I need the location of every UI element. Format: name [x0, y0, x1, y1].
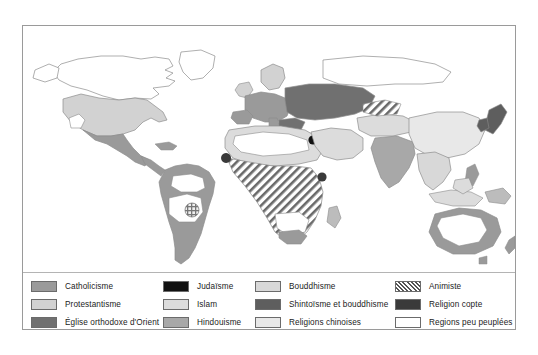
legend-column-1: Catholicisme Protestantisme Église ortho… — [31, 278, 159, 332]
legend-label-regions-peu-peuplees: Regions peu peuplées — [429, 317, 512, 328]
legend-swatch-religions-chinoises — [255, 317, 281, 328]
legend-column-2: Judaïsme Islam Hindouisme — [163, 278, 241, 332]
legend-swatch-islam — [163, 299, 189, 310]
world-map-canvas — [23, 26, 515, 271]
legend-item-judaisme[interactable]: Judaïsme — [163, 278, 241, 294]
legend-label-animiste: Animiste — [429, 281, 461, 292]
legend-label-judaisme: Judaïsme — [197, 281, 233, 292]
legend-label-protestantisme: Protestantisme — [65, 299, 121, 310]
legend-label-shintoisme-et-bouddhisme: Shintoïsme et bouddhisme — [289, 299, 388, 310]
legend-swatch-animiste — [395, 281, 421, 292]
legend-item-catholicisme[interactable]: Catholicisme — [31, 278, 159, 294]
legend-label-religion-copte: Religion copte — [429, 299, 482, 310]
legend-swatch-catholicisme — [31, 281, 57, 292]
legend-swatch-shintoisme-et-bouddhisme — [255, 299, 281, 310]
legend-label-bouddhisme: Bouddhisme — [289, 281, 336, 292]
region-morocco-copt-dot — [221, 153, 231, 163]
legend-label-eglise-orthodoxe-orient: Église orthodoxe d'Orient — [65, 317, 159, 328]
legend-column-4: Animiste Religion copte Regions peu peup… — [395, 278, 512, 332]
legend-swatch-hindouisme — [163, 317, 189, 328]
legend-swatch-religion-copte — [395, 299, 421, 310]
legend-item-religions-chinoises[interactable]: Religions chinoises — [255, 314, 388, 330]
legend-item-eglise-orthodoxe-orient[interactable]: Église orthodoxe d'Orient — [31, 314, 159, 330]
legend-column-3: Bouddhisme Shintoïsme et bouddhisme Reli… — [255, 278, 388, 332]
legend-swatch-eglise-orthodoxe-orient — [31, 317, 57, 328]
legend-swatch-protestantisme — [31, 299, 57, 310]
legend-swatch-regions-peu-peuplees — [395, 317, 421, 328]
legend-item-hindouisme[interactable]: Hindouisme — [163, 314, 241, 330]
legend-swatch-bouddhisme — [255, 281, 281, 292]
legend-label-catholicisme: Catholicisme — [65, 281, 113, 292]
legend-item-regions-peu-peuplees[interactable]: Regions peu peuplées — [395, 314, 512, 330]
region-brazil-animist-patch — [185, 203, 199, 217]
legend-label-hindouisme: Hindouisme — [197, 317, 241, 328]
map-legend: Catholicisme Protestantisme Église ortho… — [23, 274, 515, 329]
region-ethiopia-copte — [317, 172, 326, 181]
region-amazon-sparse — [171, 174, 205, 192]
legend-item-protestantisme[interactable]: Protestantisme — [31, 296, 159, 312]
legend-swatch-judaisme — [163, 281, 189, 292]
legend-item-religion-copte[interactable]: Religion copte — [395, 296, 512, 312]
legend-label-islam: Islam — [197, 299, 217, 310]
legend-item-shintoisme-et-bouddhisme[interactable]: Shintoïsme et bouddhisme — [255, 296, 388, 312]
legend-item-animiste[interactable]: Animiste — [395, 278, 512, 294]
region-central-asia-islam — [357, 114, 415, 136]
legend-item-bouddhisme[interactable]: Bouddhisme — [255, 278, 388, 294]
map-figure: Catholicisme Protestantisme Église ortho… — [0, 0, 538, 355]
legend-item-islam[interactable]: Islam — [163, 296, 241, 312]
legend-label-religions-chinoises: Religions chinoises — [289, 317, 361, 328]
legend-divider — [23, 272, 515, 273]
figure-frame: Catholicisme Protestantisme Église ortho… — [22, 25, 516, 330]
